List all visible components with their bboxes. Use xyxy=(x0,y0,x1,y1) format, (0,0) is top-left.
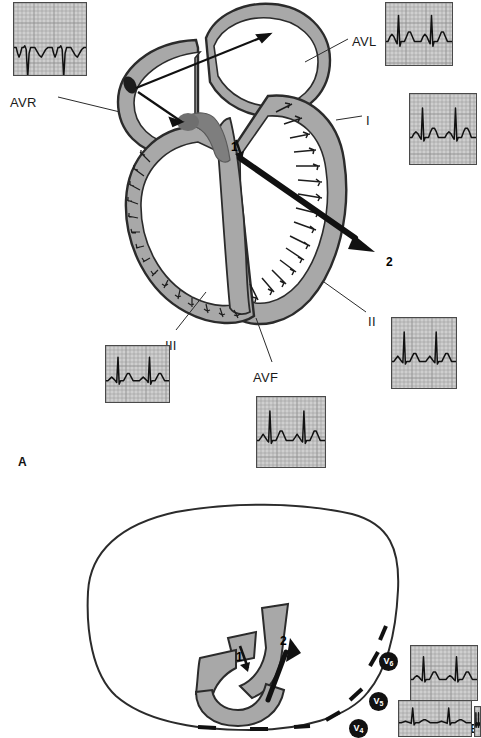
ecg-avf xyxy=(256,396,326,468)
ecg-v6 xyxy=(410,645,478,701)
leader-ii xyxy=(324,282,366,312)
vector-label-1-panel-a: 1 xyxy=(231,140,238,154)
vector-label-1-panel-b: 1 xyxy=(236,650,243,664)
panel-b-torso-diagram xyxy=(0,480,479,735)
precordial-tag-v5-sub: 5 xyxy=(380,700,384,707)
precordial-tag-v6: V6 xyxy=(379,652,398,671)
vector-label-2-panel-b: 2 xyxy=(280,634,287,648)
ecg-ii xyxy=(391,317,457,389)
precordial-tag-v4: V4 xyxy=(349,719,368,738)
electrode-v1 xyxy=(198,727,216,728)
lead-label-i: I xyxy=(366,113,370,128)
precordial-tag-v5: V5 xyxy=(369,692,388,711)
electrode-v3 xyxy=(294,726,310,727)
lead-label-ii: II xyxy=(368,314,376,329)
lead-label-avf: AVF xyxy=(253,370,278,385)
ecg-v5 xyxy=(398,700,472,737)
leader-avr xyxy=(58,97,120,112)
lead-label-avr: AVR xyxy=(10,95,37,110)
precordial-tag-v4-sub: 4 xyxy=(360,727,364,734)
ecg-i xyxy=(409,93,477,165)
ecg-v4 xyxy=(474,706,481,737)
ecg-avr xyxy=(13,2,87,76)
vector-label-2-panel-a: 2 xyxy=(386,255,393,269)
lead-label-avl: AVL xyxy=(352,34,377,49)
precordial-tag-v6-sub: 6 xyxy=(390,660,394,667)
ecg-avl xyxy=(385,2,453,66)
panel-label-a: A xyxy=(18,455,27,469)
leader-i xyxy=(336,116,362,120)
ecg-iii xyxy=(105,345,170,403)
